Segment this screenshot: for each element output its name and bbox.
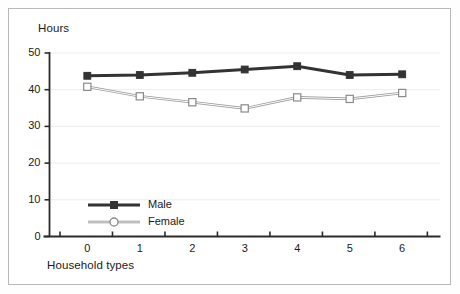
- data-point-marker: [241, 66, 248, 73]
- x-axis-title: Household types: [47, 259, 134, 271]
- data-point-marker: [189, 69, 196, 76]
- data-point-marker: [241, 105, 248, 112]
- data-point-marker: [346, 72, 353, 79]
- data-point-marker: [346, 95, 353, 102]
- x-tick-label: 1: [127, 242, 153, 254]
- x-tick-label: 0: [74, 242, 100, 254]
- data-point-marker: [84, 72, 91, 79]
- legend-label-male: Male: [148, 198, 172, 210]
- y-tick-label: 50: [17, 46, 41, 58]
- data-point-marker: [84, 83, 91, 90]
- x-tick-label: 4: [284, 242, 310, 254]
- data-point-marker: [136, 93, 143, 100]
- data-point-marker: [189, 99, 196, 106]
- data-point-marker: [294, 63, 301, 70]
- y-tick-label: 0: [17, 230, 41, 242]
- y-tick-label: 10: [17, 193, 41, 205]
- x-tick-label: 5: [337, 242, 363, 254]
- screenshot-root: Hours Household types 01020304050 012345…: [0, 0, 460, 294]
- data-point-marker: [136, 72, 143, 79]
- y-axis-title: Hours: [38, 22, 69, 34]
- data-point-marker: [294, 94, 301, 101]
- legend-marker: [110, 218, 118, 226]
- x-tick-label: 6: [389, 242, 415, 254]
- x-tick-label: 2: [179, 242, 205, 254]
- y-tick-label: 20: [17, 156, 41, 168]
- data-point-marker: [399, 89, 406, 96]
- data-point-marker: [399, 71, 406, 78]
- x-tick-label: 3: [232, 242, 258, 254]
- y-tick-label: 30: [17, 119, 41, 131]
- y-tick-label: 40: [17, 83, 41, 95]
- legend-marker: [110, 201, 118, 209]
- legend-label-female: Female: [148, 215, 185, 227]
